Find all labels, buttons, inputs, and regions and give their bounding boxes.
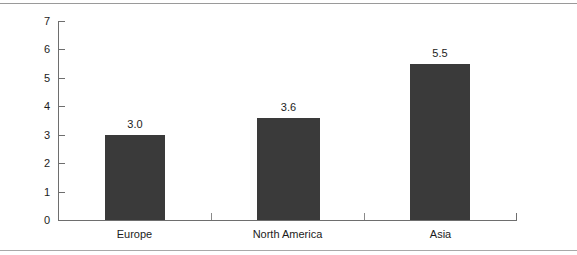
y-axis-tick	[59, 78, 65, 79]
y-axis-tick-label-text: 6	[28, 44, 50, 55]
y-axis-tick-label-text: 4	[28, 101, 50, 112]
bar-chart-plot-area: 01234567 3.0Europe3.6North America5.5Asi…	[0, 0, 577, 255]
y-axis-line	[58, 21, 59, 221]
y-axis-tick-label: 3	[28, 130, 50, 141]
y-axis-tick	[59, 106, 65, 107]
x-axis-category-label: Europe	[58, 228, 211, 240]
y-axis-tick-label-text: 0	[28, 215, 50, 226]
bar-north-america[interactable]	[257, 118, 320, 220]
y-axis-tick-label: 0	[28, 215, 50, 226]
x-axis-category-label: North America	[211, 228, 364, 240]
y-axis-tick-label: 7	[28, 16, 50, 27]
y-axis-tick-label-text: 3	[28, 130, 50, 141]
y-axis-tick	[59, 163, 65, 164]
x-axis-right-cap	[516, 213, 517, 221]
y-axis-tick-label: 5	[28, 73, 50, 84]
x-axis-category-label: Asia	[364, 228, 517, 240]
x-axis-separator-tick-2	[364, 213, 365, 220]
bar-asia[interactable]	[410, 64, 470, 220]
y-axis-tick-label: 2	[28, 158, 50, 169]
bar-value-label: 3.6	[257, 102, 320, 113]
x-axis-line	[58, 220, 517, 221]
bar-value-label: 5.5	[410, 48, 470, 59]
y-axis-tick	[59, 49, 65, 50]
y-axis-tick	[59, 21, 65, 22]
bar-value-label: 3.0	[105, 119, 165, 130]
x-axis-separator-tick-1	[211, 213, 212, 220]
bar-europe[interactable]	[105, 135, 165, 220]
y-axis-tick	[59, 192, 65, 193]
y-axis-tick-label-text: 5	[28, 73, 50, 84]
y-axis-tick-label-text: 7	[28, 16, 50, 27]
y-axis-tick-label: 6	[28, 44, 50, 55]
y-axis-tick	[59, 135, 65, 136]
y-axis-tick-label: 4	[28, 101, 50, 112]
chart-page: 01234567 3.0Europe3.6North America5.5Asi…	[0, 0, 577, 255]
y-axis-tick-label: 1	[28, 187, 50, 198]
y-axis-tick-label-text: 2	[28, 158, 50, 169]
y-axis-tick-label-text: 1	[28, 187, 50, 198]
